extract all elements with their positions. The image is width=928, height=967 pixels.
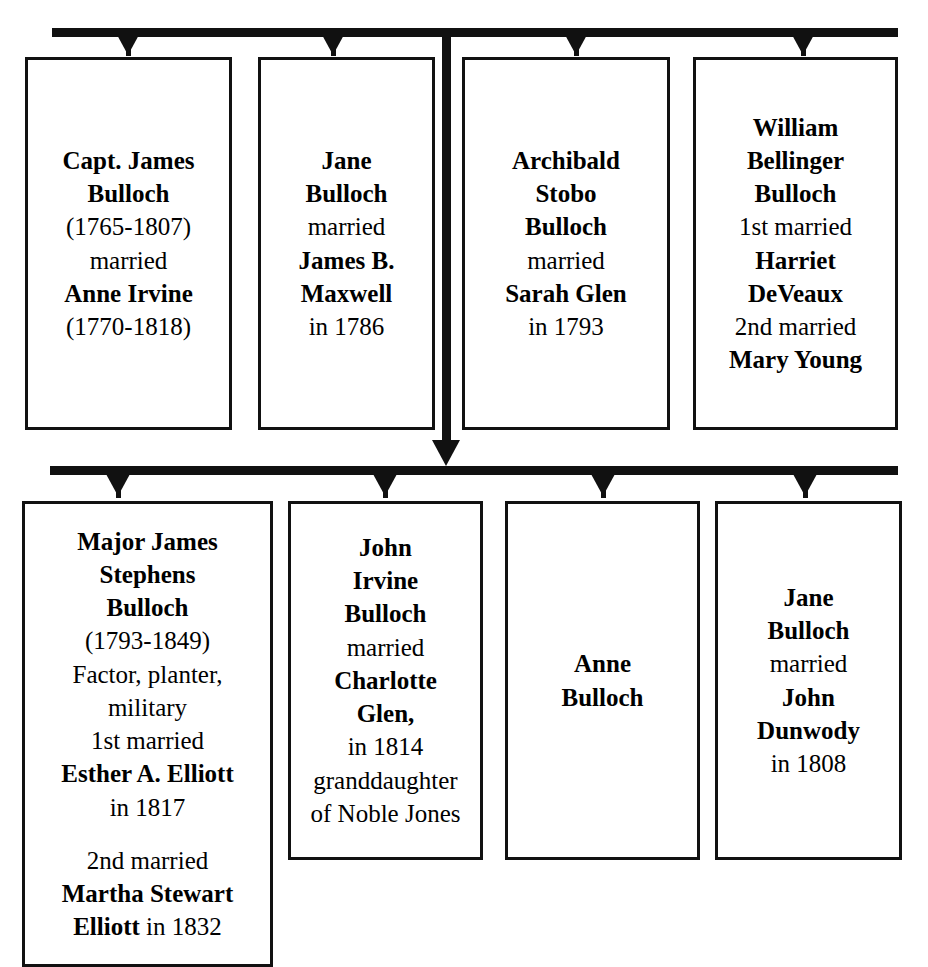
person-line: Bulloch (724, 614, 893, 647)
person-box-capt-james-bulloch: Capt. JamesBulloch(1765-1807)marriedAnne… (25, 57, 232, 430)
person-line: Jane (724, 581, 893, 614)
person-box-content: Capt. JamesBulloch(1765-1807)marriedAnne… (28, 144, 229, 344)
person-line: Capt. James (34, 144, 223, 177)
spine-arrow-head (432, 440, 460, 466)
person-line: military (31, 691, 264, 724)
person-line: William (702, 111, 889, 144)
person-line: Factor, planter, (31, 658, 264, 691)
person-line: (1770-1818) (34, 310, 223, 343)
person-line: in 1817 (31, 791, 264, 824)
person-line: Jane (267, 144, 426, 177)
person-line: Esther A. Elliott (31, 757, 264, 790)
person-line: Mary Young (702, 343, 889, 376)
person-line: John (297, 531, 474, 564)
person-box-content: JohnIrvineBullochmarriedCharlotteGlen,in… (291, 531, 480, 830)
person-line: Charlotte (297, 664, 474, 697)
person-line: Maxwell (267, 277, 426, 310)
person-line: in 1793 (471, 310, 661, 343)
person-line: Stobo (471, 177, 661, 210)
person-box-john-irvine-bulloch: JohnIrvineBullochmarriedCharlotteGlen,in… (288, 501, 483, 860)
person-line: 1st married (31, 724, 264, 757)
person-line-spacer (31, 824, 264, 844)
person-line: Bulloch (297, 597, 474, 630)
person-line: married (297, 631, 474, 664)
person-line: Archibald (471, 144, 661, 177)
person-line: Elliott in 1832 (31, 910, 264, 943)
person-line: Harriet (702, 244, 889, 277)
generation-spine (442, 28, 451, 442)
person-line: Anne (514, 647, 691, 680)
person-line: married (724, 647, 893, 680)
person-line: Martha Stewart (31, 877, 264, 910)
person-line: in 1786 (267, 310, 426, 343)
person-box-content: JaneBullochmarriedJames B.Maxwellin 1786 (261, 144, 432, 344)
person-box-archibald-stobo-bulloch: ArchibaldStoboBullochmarriedSarah Glenin… (462, 57, 670, 430)
person-line: married (267, 210, 426, 243)
person-line: 2nd married (31, 844, 264, 877)
person-line: Bulloch (34, 177, 223, 210)
person-line: Bulloch (471, 210, 661, 243)
person-line-segment: in 1832 (140, 913, 222, 940)
person-line: Anne Irvine (34, 277, 223, 310)
person-box-major-james-stephens-bulloch: Major JamesStephensBulloch(1793-1849)Fac… (22, 501, 273, 967)
person-line: Major James (31, 525, 264, 558)
person-box-content: Major JamesStephensBulloch(1793-1849)Fac… (25, 525, 270, 944)
person-line: Dunwody (724, 714, 893, 747)
person-box-content: WilliamBellingerBulloch1st marriedHarrie… (696, 111, 895, 377)
person-box-william-bellinger-bulloch: WilliamBellingerBulloch1st marriedHarrie… (693, 57, 898, 430)
person-line: married (471, 244, 661, 277)
family-tree-diagram: Capt. JamesBulloch(1765-1807)marriedAnne… (0, 0, 928, 967)
generation-1-rail (52, 28, 898, 37)
person-line: Irvine (297, 564, 474, 597)
person-box-jane-bulloch-maxwell: JaneBullochmarriedJames B.Maxwellin 1786 (258, 57, 435, 430)
person-line: Bulloch (702, 177, 889, 210)
person-line: 1st married (702, 210, 889, 243)
person-line: Bulloch (267, 177, 426, 210)
person-line: Stephens (31, 558, 264, 591)
person-line: (1793-1849) (31, 624, 264, 657)
person-box-content: ArchibaldStoboBullochmarriedSarah Glenin… (465, 144, 667, 344)
person-line: Bellinger (702, 144, 889, 177)
person-box-jane-bulloch-dunwody: JaneBullochmarriedJohnDunwodyin 1808 (715, 501, 902, 860)
person-line: Glen, (297, 697, 474, 730)
generation-2-rail (50, 466, 898, 475)
person-box-anne-bulloch: AnneBulloch (505, 501, 700, 860)
person-line: married (34, 244, 223, 277)
person-line: in 1808 (724, 747, 893, 780)
person-line: Bulloch (31, 591, 264, 624)
person-line: John (724, 681, 893, 714)
person-box-content: AnneBulloch (508, 647, 697, 714)
person-line: DeVeaux (702, 277, 889, 310)
person-line: of Noble Jones (297, 797, 474, 830)
person-line: Sarah Glen (471, 277, 661, 310)
person-line: granddaughter (297, 764, 474, 797)
person-line: (1765-1807) (34, 210, 223, 243)
person-line-segment: Elliott (73, 913, 140, 940)
person-line: James B. (267, 244, 426, 277)
person-line: in 1814 (297, 730, 474, 763)
person-line: Bulloch (514, 681, 691, 714)
person-box-content: JaneBullochmarriedJohnDunwodyin 1808 (718, 581, 899, 781)
person-line: 2nd married (702, 310, 889, 343)
